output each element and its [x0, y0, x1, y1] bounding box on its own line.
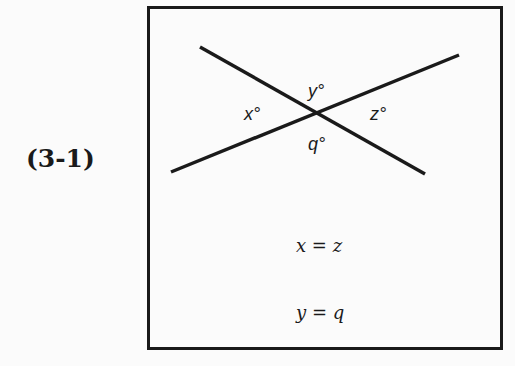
line-ascending: [171, 55, 459, 172]
angle-label-x: x°: [243, 104, 260, 124]
line-descending: [200, 47, 425, 174]
equation-x-equals-z: x = z: [296, 235, 342, 257]
angle-label-z: z°: [369, 104, 386, 124]
angle-label-q: q°: [308, 134, 325, 154]
vertical-angles-diagram: y° x° z° q°: [0, 0, 515, 366]
equation-y-equals-q: y = q: [296, 302, 344, 324]
angle-label-y: y°: [306, 81, 324, 101]
